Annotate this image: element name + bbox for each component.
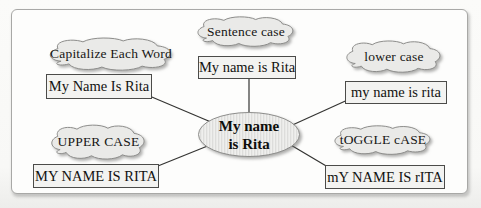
example-text: MY NAME IS RITA xyxy=(35,168,157,185)
cloud-toggle-case: tOGGLE cASE xyxy=(330,124,436,156)
case-style-label: UPPER CASE xyxy=(58,134,140,150)
example-text: my name is rita xyxy=(351,84,441,101)
example-text: My Name Is Rita xyxy=(49,78,149,95)
center-title-line2: is Rita xyxy=(219,135,279,153)
page-background: Capitalize Each Word Sentence case lower… xyxy=(0,0,481,208)
center-label: My name is Rita xyxy=(219,117,279,153)
case-style-label: lower case xyxy=(364,49,423,65)
example-box-sentence-case: My name is Rita xyxy=(198,56,296,79)
example-text: mY NAME IS rITA xyxy=(327,169,443,186)
center-node: My name is Rita xyxy=(197,111,301,158)
cloud-capitalize-each-word: Capitalize Each Word xyxy=(44,36,178,72)
cloud-lower-case: lower case xyxy=(342,39,446,74)
example-box-toggle-case: mY NAME IS rITA xyxy=(325,165,445,189)
example-box-capitalize-each-word: My Name Is Rita xyxy=(46,74,152,99)
case-style-label: Capitalize Each Word xyxy=(50,46,172,62)
cloud-upper-case: UPPER CASE xyxy=(47,123,150,161)
case-style-label: Sentence case xyxy=(207,24,285,40)
example-box-upper-case: MY NAME IS RITA xyxy=(33,164,159,188)
center-title-line1: My name xyxy=(219,117,279,135)
example-text: My name is Rita xyxy=(199,59,295,76)
case-style-label: tOGGLE cASE xyxy=(340,132,427,148)
cloud-sentence-case: Sentence case xyxy=(193,15,299,48)
example-box-lower-case: my name is rita xyxy=(345,81,447,104)
